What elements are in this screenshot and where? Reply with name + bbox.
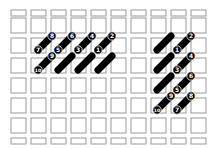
grid-cell xyxy=(71,78,86,93)
stitch-number: 5 xyxy=(56,46,60,53)
stitch-number: 10 xyxy=(35,68,41,73)
grid-cell xyxy=(51,10,66,16)
grid-cell xyxy=(191,58,206,73)
stitch-number: 6 xyxy=(70,32,74,39)
grid-cell xyxy=(171,18,186,33)
stitch-number: 7 xyxy=(36,46,40,53)
grid-cell xyxy=(111,10,126,16)
grid-cell xyxy=(11,118,26,133)
grid-cell xyxy=(111,78,126,93)
grid-cell xyxy=(171,118,186,133)
stitch-number: 7 xyxy=(175,106,179,113)
stitch-number: 1 xyxy=(175,46,179,53)
grid-cell xyxy=(131,118,146,133)
grid-cell xyxy=(51,118,66,133)
grid-cell xyxy=(151,118,166,133)
grid-cell xyxy=(151,138,166,144)
grid-cell xyxy=(91,18,106,33)
grid-cell xyxy=(131,10,146,16)
grid-cell xyxy=(71,98,86,113)
grid-cell xyxy=(91,78,106,93)
grid-cell xyxy=(31,18,46,33)
grid-cell xyxy=(11,18,26,33)
grid-cell xyxy=(51,18,66,33)
stitch-number: 5 xyxy=(175,86,179,93)
grid-cell xyxy=(131,18,146,33)
grid-cell xyxy=(11,58,26,73)
grid-cell xyxy=(191,98,206,113)
grid-cell xyxy=(31,118,46,133)
stitch-number: 1 xyxy=(96,46,100,53)
grid-cell xyxy=(131,58,146,73)
grid-cell xyxy=(111,98,126,113)
grid-cell xyxy=(191,118,206,133)
grid-cell xyxy=(171,138,186,144)
grid-cell xyxy=(191,78,206,93)
stitch-number: 2 xyxy=(110,32,114,39)
grid-cell xyxy=(151,10,166,16)
grid-cell xyxy=(91,98,106,113)
grid-cell xyxy=(31,98,46,113)
grid-cell xyxy=(131,98,146,113)
stitch-number: 4 xyxy=(90,32,94,39)
grid-cell xyxy=(111,18,126,33)
grid-cell xyxy=(191,38,206,53)
stitch-number: 2 xyxy=(189,32,193,39)
grid-cell xyxy=(51,98,66,113)
stitch-number: 8 xyxy=(50,32,54,39)
stitch-number: 3 xyxy=(175,66,179,73)
grid-cell xyxy=(11,38,26,53)
grid-cell xyxy=(51,138,66,144)
diagram-canvas: 7856341210912345610978 xyxy=(0,0,223,149)
stitch-diagram: 7856341210912345610978 xyxy=(0,0,223,149)
stitch-number: 9 xyxy=(169,92,173,99)
grid-cell xyxy=(71,138,86,144)
grid-cell xyxy=(131,138,146,144)
grid-cell xyxy=(111,58,126,73)
grid-cell xyxy=(151,18,166,33)
grid-cell xyxy=(131,38,146,53)
grid-cell xyxy=(131,78,146,93)
stitch-number: 4 xyxy=(189,52,193,59)
grid-cell xyxy=(71,18,86,33)
fabric-grid xyxy=(11,10,206,144)
grid-cell xyxy=(11,78,26,93)
stitch-number: 9 xyxy=(50,52,54,59)
grid-cell xyxy=(51,78,66,93)
stitch-number: 6 xyxy=(189,72,193,79)
grid-cell xyxy=(191,18,206,33)
grid-cell xyxy=(11,138,26,144)
grid-cell xyxy=(191,10,206,16)
grid-cell xyxy=(191,138,206,144)
stitch-number: 10 xyxy=(154,108,160,113)
grid-cell xyxy=(71,10,86,16)
grid-cell xyxy=(91,138,106,144)
grid-cell xyxy=(31,78,46,93)
grid-cell xyxy=(31,138,46,144)
grid-cell xyxy=(111,138,126,144)
grid-cell xyxy=(171,10,186,16)
grid-cell xyxy=(91,10,106,16)
grid-cell xyxy=(71,118,86,133)
grid-cell xyxy=(111,118,126,133)
stitch-number: 3 xyxy=(76,46,80,53)
grid-cell xyxy=(11,98,26,113)
grid-cell xyxy=(11,10,26,16)
grid-cell xyxy=(31,10,46,16)
grid-cell xyxy=(91,118,106,133)
stitch-number: 8 xyxy=(189,92,193,99)
